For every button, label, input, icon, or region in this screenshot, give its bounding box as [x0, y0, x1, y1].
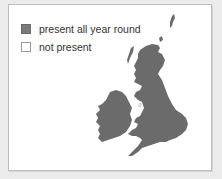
british-isles-map [0, 0, 222, 179]
isle-of-man-shape [139, 103, 141, 107]
ireland-shape [96, 90, 132, 142]
shetland-shape [170, 14, 175, 28]
orkney-shape [159, 36, 163, 42]
hebrides-shape [127, 46, 134, 64]
great-britain-shape [128, 44, 188, 156]
